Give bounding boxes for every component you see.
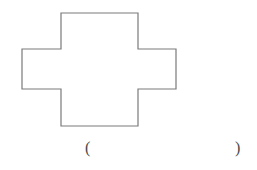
figure-page: ( ) [0, 0, 257, 170]
answer-blank-field[interactable] [95, 134, 233, 162]
cross-shape-svg [0, 0, 257, 134]
answer-paren-close: ) [235, 134, 240, 162]
figure-area [0, 0, 257, 134]
cross-shape-outline [22, 13, 176, 126]
answer-paren-open: ( [85, 134, 90, 162]
answer-row: ( ) [0, 134, 257, 170]
